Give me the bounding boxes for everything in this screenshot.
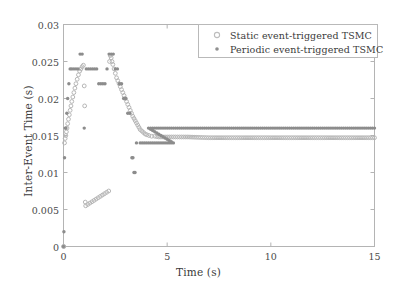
y-tick-label: 0.02 — [10, 93, 59, 104]
x-axis-label: Time (s) — [0, 266, 397, 278]
x-tick-label: 10 — [265, 251, 277, 262]
filled-dot-icon — [204, 44, 230, 54]
y-tick-label: 0.03 — [10, 19, 59, 30]
legend-entry-periodic: Periodic event-triggered TSMC — [199, 42, 377, 56]
chart-figure: 00.0050.010.0150.020.0250.03 051015 Time… — [0, 0, 397, 290]
y-tick-label: 0.01 — [10, 167, 59, 178]
x-tick-label: 0 — [60, 251, 66, 262]
y-tick-label: 0.025 — [10, 56, 59, 67]
y-tick-label: 0 — [10, 241, 59, 252]
legend-label-periodic: Periodic event-triggered TSMC — [230, 44, 383, 55]
y-tick-label: 0.005 — [10, 204, 59, 215]
chart-legend: Static event-triggered TSMC Periodic eve… — [198, 24, 378, 58]
legend-entry-static: Static event-triggered TSMC — [199, 28, 377, 42]
x-tick-label: 15 — [368, 251, 380, 262]
open-circle-icon — [204, 30, 230, 40]
y-tick-label: 0.015 — [10, 130, 59, 141]
x-tick-label: 5 — [164, 251, 170, 262]
y-axis-label: Inter-Event Time (s) — [22, 61, 34, 221]
legend-label-static: Static event-triggered TSMC — [230, 30, 372, 41]
